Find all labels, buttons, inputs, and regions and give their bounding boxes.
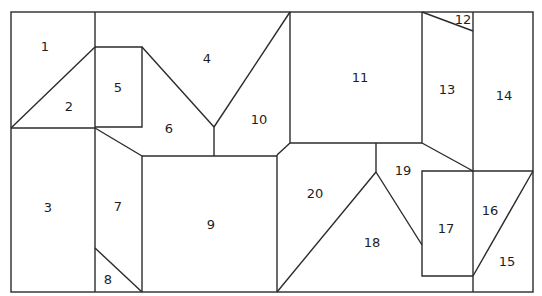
region-label-20: 20 bbox=[307, 187, 324, 200]
region-label-1: 1 bbox=[41, 40, 49, 53]
region-label-3: 3 bbox=[44, 201, 52, 214]
region-label-12: 12 bbox=[455, 13, 472, 26]
region-label-7: 7 bbox=[114, 200, 122, 213]
region-label-9: 9 bbox=[207, 218, 215, 231]
divider-line bbox=[277, 172, 376, 292]
region-label-2: 2 bbox=[65, 100, 73, 113]
divider-line bbox=[95, 248, 142, 292]
divider-line bbox=[422, 143, 473, 171]
region-label-6: 6 bbox=[165, 122, 173, 135]
region-label-4: 4 bbox=[203, 52, 211, 65]
divider-line bbox=[95, 128, 142, 156]
region-label-14: 14 bbox=[496, 89, 513, 102]
region-label-17: 17 bbox=[438, 222, 455, 235]
divider-line bbox=[11, 47, 95, 128]
region-label-5: 5 bbox=[114, 81, 122, 94]
outer-frame bbox=[11, 12, 533, 292]
region-label-8: 8 bbox=[104, 273, 112, 286]
divider-line bbox=[277, 143, 290, 155]
region-label-15: 15 bbox=[499, 255, 516, 268]
region-label-13: 13 bbox=[439, 83, 456, 96]
divider-line bbox=[214, 12, 290, 127]
diagram-lines bbox=[0, 0, 542, 296]
region-label-11: 11 bbox=[352, 71, 369, 84]
region-label-19: 19 bbox=[395, 164, 412, 177]
region-label-16: 16 bbox=[482, 204, 499, 217]
region-label-18: 18 bbox=[364, 236, 381, 249]
divider-line bbox=[376, 172, 422, 245]
region-label-10: 10 bbox=[251, 113, 268, 126]
